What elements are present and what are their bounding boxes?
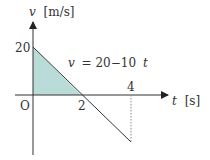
origin-label: O [20, 99, 30, 113]
vt-graph: v [m/s] 20 v = 20−10 t O 2 4 t [s] [0, 0, 210, 160]
equation-label: v = 20−10 t [68, 56, 148, 70]
y-tick-20: 20 [15, 41, 30, 55]
x-tick-2: 2 [78, 99, 86, 113]
y-axis-label: v [m/s] [29, 5, 75, 19]
x-axis-label: t [s] [172, 94, 200, 108]
x-tick-4: 4 [127, 80, 135, 94]
